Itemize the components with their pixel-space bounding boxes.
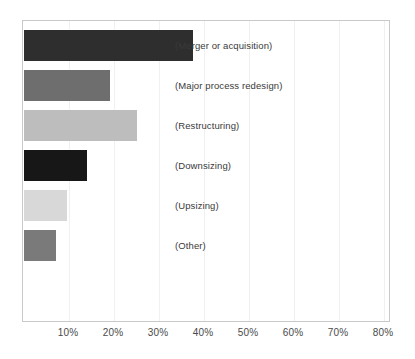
x-tick-label: 10% [58, 327, 79, 338]
bar-category-label: (Merger or acquisition) [175, 30, 272, 61]
bar-row: (Merger or acquisition) [23, 30, 391, 61]
plot-area: (Merger or acquisition)(Major process re… [22, 20, 390, 322]
x-tick-label: 80% [373, 327, 394, 338]
bar [24, 110, 137, 141]
bar [24, 190, 67, 221]
bar-chart: (Merger or acquisition)(Major process re… [0, 0, 415, 359]
bar-category-label: (Restructuring) [175, 110, 239, 141]
x-tick-label: 50% [238, 327, 259, 338]
x-tick-label: 30% [148, 327, 169, 338]
x-tick-label: 70% [328, 327, 349, 338]
bar-category-label: (Major process redesign) [175, 70, 282, 101]
bar-category-label: (Other) [175, 230, 206, 261]
bar-row: (Downsizing) [23, 150, 391, 181]
bar-category-label: (Downsizing) [175, 150, 231, 181]
bar-row: (Major process redesign) [23, 70, 391, 101]
bar [24, 70, 110, 101]
bar [24, 30, 193, 61]
bar-row: (Other) [23, 230, 391, 261]
bar-row: (Restructuring) [23, 110, 391, 141]
bar-row: (Upsizing) [23, 190, 391, 221]
bar-category-label: (Upsizing) [175, 190, 219, 221]
x-tick-label: 60% [283, 327, 304, 338]
x-tick-label: 40% [193, 327, 214, 338]
bar [24, 230, 56, 261]
x-axis-tick-labels: 10%20%30%40%50%60%70%80%90% [22, 327, 390, 347]
bar [24, 150, 87, 181]
x-tick-label: 20% [103, 327, 124, 338]
